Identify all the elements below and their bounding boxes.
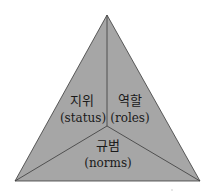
status-label-korean: 지위 xyxy=(70,93,94,108)
norms-label-english: (norms) xyxy=(84,156,132,170)
norms-label-korean: 규범 xyxy=(96,138,120,153)
speck-dot xyxy=(171,189,173,191)
roles-label-english: (roles) xyxy=(110,111,149,125)
roles-label-korean: 역할 xyxy=(118,93,142,108)
status-label-english: (status) xyxy=(60,111,106,125)
triangle-diagram: 지위 (status) 역할 (roles) 규범 (norms) xyxy=(0,0,214,194)
